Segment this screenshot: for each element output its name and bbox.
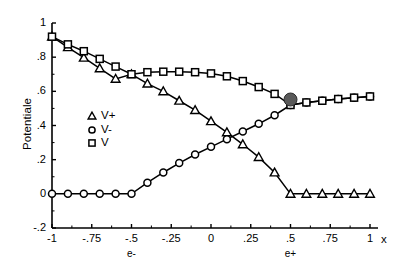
chart-figure: 1.8.6.4.20-.2 -1-.75-.5-.250.25.5.751 Po… bbox=[0, 0, 404, 278]
x-tick-label: .5 bbox=[271, 232, 311, 244]
chart-legend: V+V-V bbox=[86, 109, 115, 150]
x-tick-label: -1 bbox=[32, 232, 72, 244]
highlight-marker bbox=[284, 93, 297, 106]
legend-item-Vminus: V- bbox=[86, 123, 115, 137]
square-icon bbox=[86, 136, 101, 149]
legend-label: V+ bbox=[101, 109, 115, 123]
legend-label: V- bbox=[101, 123, 112, 137]
y-tick-label: .8 bbox=[14, 50, 46, 62]
x-axis-title: x bbox=[381, 233, 387, 245]
x-tick-label: 0 bbox=[191, 232, 231, 244]
x-tick-label: .25 bbox=[231, 232, 271, 244]
circle-icon bbox=[86, 123, 101, 136]
x-tick-label: -.25 bbox=[151, 232, 191, 244]
x-tick-label: -.75 bbox=[72, 232, 112, 244]
legend-item-Vplus: V+ bbox=[86, 109, 115, 123]
legend-label: V bbox=[101, 136, 109, 150]
legend-item-V: V bbox=[86, 136, 115, 150]
y-tick-label: 1 bbox=[14, 16, 46, 28]
annotation-e-plus: e+ bbox=[271, 248, 311, 259]
y-axis-title: Potentiale bbox=[21, 79, 33, 169]
x-tick-label: .75 bbox=[310, 232, 350, 244]
x-tick-label: -.5 bbox=[112, 232, 152, 244]
triangle-icon bbox=[86, 109, 101, 122]
annotation-e-minus: e- bbox=[112, 248, 152, 259]
y-tick-label: 0 bbox=[14, 187, 46, 199]
